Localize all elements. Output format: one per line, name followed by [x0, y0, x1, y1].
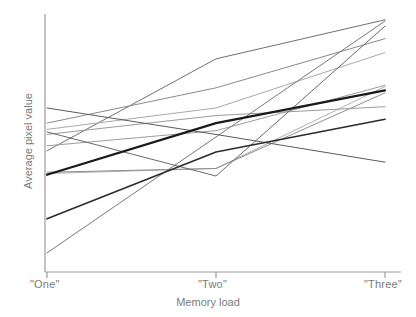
series-group [47, 20, 385, 253]
y-axis-title: Average pixel value [22, 61, 34, 221]
x-tick-label-one: "One" [30, 278, 60, 290]
subject-line [47, 21, 385, 253]
axis-lines [45, 14, 401, 278]
subject-line [47, 108, 385, 162]
line-chart-plot [0, 0, 416, 317]
mean-line [47, 90, 385, 174]
x-tick-label-two: "Two" [198, 278, 227, 290]
x-axis-title: Memory load [0, 296, 416, 308]
subject-line [47, 53, 385, 130]
subject-line [47, 39, 385, 123]
x-tick-label-three: "Three" [364, 278, 402, 290]
subject-line [47, 20, 385, 151]
chart-figure: "One" "Two" "Three" Memory load Average … [0, 0, 416, 317]
